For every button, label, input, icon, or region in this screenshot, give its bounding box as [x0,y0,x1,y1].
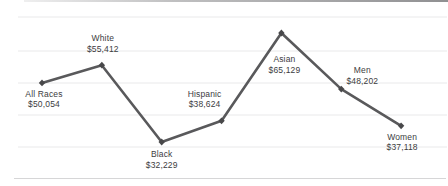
income-line-chart: All Races$50,054White$55,412Black$32,229… [0,0,448,186]
label-black: Black$32,229 [146,149,178,170]
label-men: Men$48,202 [346,65,378,86]
label-asian: Asian$65,129 [269,54,301,75]
label-white: White$55,412 [87,33,119,54]
label-women: Women$37,118 [387,132,418,153]
bottom-border-line [14,178,446,179]
chart-canvas: All Races$50,054White$55,412Black$32,229… [0,0,448,186]
data-point-all-races [39,80,45,87]
label-hispanic: Hispanic$38,624 [188,89,222,110]
label-all-races: All Races$50,054 [25,89,62,110]
